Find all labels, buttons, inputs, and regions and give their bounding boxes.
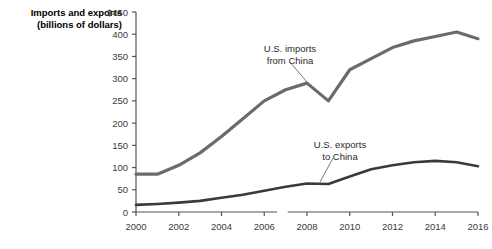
x-axis-tick-labels: 200020022004200620082010201220142016 bbox=[125, 221, 488, 232]
y-tick-label: 0 bbox=[123, 207, 128, 218]
x-tick-label: 2002 bbox=[168, 221, 189, 232]
series-annotation-label: to China bbox=[322, 151, 358, 162]
y-tick-label: 100 bbox=[112, 162, 128, 173]
annotations-group: U.S. importsfrom ChinaU.S. exportsto Chi… bbox=[264, 43, 367, 182]
series-annotation-label: from China bbox=[267, 55, 314, 66]
y-tick-label: 150 bbox=[112, 140, 128, 151]
chart-container: Imports and exports(billions of dollars)… bbox=[0, 0, 492, 249]
y-tick-label: 50 bbox=[117, 184, 128, 195]
series-line bbox=[136, 161, 478, 205]
y-tick-label: 300 bbox=[112, 73, 128, 84]
y-tick-label: 250 bbox=[112, 95, 128, 106]
line-chart: Imports and exports(billions of dollars)… bbox=[0, 0, 492, 249]
series-annotation-label: U.S. imports bbox=[264, 43, 317, 54]
y-axis-tick-labels: 050100150200250300350400$450 bbox=[107, 7, 128, 218]
x-tick-label: 2012 bbox=[382, 221, 403, 232]
x-tick-label: 2010 bbox=[339, 221, 360, 232]
y-tick-label: 350 bbox=[112, 51, 128, 62]
y-tick-label: $450 bbox=[107, 7, 128, 18]
series-annotation-label: U.S. exports bbox=[314, 139, 367, 150]
y-tick-label: 200 bbox=[112, 118, 128, 129]
x-axis-ticks bbox=[136, 212, 478, 216]
x-tick-label: 2014 bbox=[425, 221, 446, 232]
x-tick-label: 2008 bbox=[296, 221, 317, 232]
x-tick-label: 2000 bbox=[125, 221, 146, 232]
y-axis-title-line: (billions of dollars) bbox=[37, 19, 122, 30]
x-tick-label: 2006 bbox=[254, 221, 275, 232]
x-tick-label: 2016 bbox=[467, 221, 488, 232]
x-tick-label: 2004 bbox=[211, 221, 232, 232]
y-tick-label: 400 bbox=[112, 29, 128, 40]
